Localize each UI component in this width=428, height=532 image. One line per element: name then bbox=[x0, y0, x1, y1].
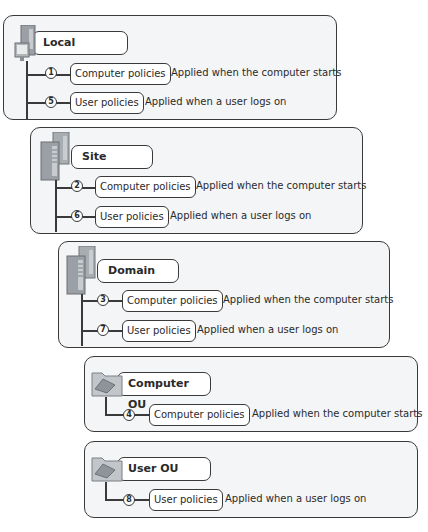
computer-policies-box: Computer policies bbox=[95, 176, 196, 198]
panel-local: Local 1 Computer policies Applied when t… bbox=[3, 15, 337, 120]
panel-domain: Domain 3 Computer policies Applied when … bbox=[58, 241, 390, 348]
user-policies-box: User policies bbox=[149, 489, 223, 511]
policy-description: Applied when the computer starts bbox=[252, 407, 422, 421]
policy-description: Applied when the computer starts bbox=[223, 293, 393, 307]
user-policies-box: User policies bbox=[95, 206, 169, 228]
server-icon bbox=[37, 132, 75, 182]
level-title: Computer OU bbox=[117, 372, 211, 396]
level-title: Local bbox=[32, 31, 128, 55]
panel-computer-ou: Computer OU 4 Computer policies Applied … bbox=[84, 356, 418, 432]
order-badge: 8 bbox=[123, 494, 135, 506]
level-title: Site bbox=[71, 145, 153, 169]
policy-description: Applied when the computer starts bbox=[196, 179, 366, 193]
computer-policies-box: Computer policies bbox=[122, 290, 223, 312]
panel-site: Site 2 Computer policies Applied when th… bbox=[30, 127, 363, 234]
level-title: Domain bbox=[97, 259, 179, 283]
computer-policies-box: Computer policies bbox=[70, 63, 171, 85]
folder-icon bbox=[91, 454, 123, 482]
order-badge: 6 bbox=[71, 210, 83, 222]
order-badge: 1 bbox=[45, 67, 57, 79]
computer-icon bbox=[14, 25, 38, 63]
order-badge: 4 bbox=[123, 409, 135, 421]
panel-user-ou: User OU 8 User policies Applied when a u… bbox=[84, 441, 418, 518]
level-title: User OU bbox=[117, 457, 211, 481]
connector-line bbox=[26, 61, 28, 119]
order-badge: 3 bbox=[97, 294, 109, 306]
policy-description: Applied when a user logs on bbox=[170, 209, 311, 223]
folder-icon bbox=[91, 369, 123, 397]
order-badge: 5 bbox=[45, 96, 57, 108]
policy-description: Applied when a user logs on bbox=[225, 492, 366, 506]
policy-description: Applied when a user logs on bbox=[145, 95, 286, 109]
order-badge: 2 bbox=[71, 180, 83, 192]
user-policies-box: User policies bbox=[122, 320, 196, 342]
computer-policies-box: Computer policies bbox=[149, 404, 250, 426]
order-badge: 7 bbox=[97, 324, 109, 336]
server-icon bbox=[63, 246, 101, 296]
policy-description: Applied when the computer starts bbox=[171, 66, 341, 80]
policy-description: Applied when a user logs on bbox=[197, 323, 338, 337]
user-policies-box: User policies bbox=[70, 92, 144, 114]
